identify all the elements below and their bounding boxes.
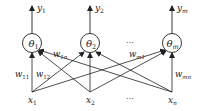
weight-label-w12: w12 — [36, 69, 50, 80]
input-label-x2: x2 — [86, 95, 95, 106]
weight-label-wm1: wm1 — [129, 49, 145, 60]
neuron-ellipsis: ⋯ — [126, 38, 134, 47]
output-label-y1: y1 — [36, 3, 46, 14]
input-label-x1: x1 — [28, 95, 37, 106]
weight-label-w11: w11 — [15, 69, 29, 80]
neural-network-diagram: θ1 θ2 θm y1 y2 ym ⋯ ⋯ w1n wm1 w11 w12 wm… — [0, 0, 203, 111]
weight-label-wmn: wmn — [175, 69, 191, 80]
neuron-theta2: θ2 — [81, 34, 100, 53]
weight-label-w1n: w1n — [53, 49, 68, 60]
output-label-ym: ym — [176, 3, 188, 14]
input-ellipsis: ⋯ — [126, 94, 134, 103]
neuron-theta1: θ1 — [23, 34, 42, 53]
input-label-xn: xn — [168, 95, 177, 106]
output-label-y2: y2 — [94, 3, 104, 14]
neuron-thetam: θm — [163, 34, 182, 53]
